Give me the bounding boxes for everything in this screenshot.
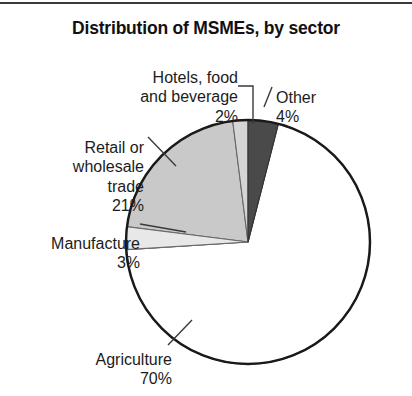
slice-label-other-text: Other — [276, 89, 316, 106]
leader-line-hotels — [238, 86, 253, 124]
slice-label-other: Other 4% — [276, 68, 366, 146]
slice-value-manufacture: 3% — [4, 253, 140, 273]
pie-chart-figure: Distribution of MSMEs, by sector Hotels,… — [0, 0, 412, 396]
slice-label-manufacture: Manufacture 3% — [4, 214, 140, 292]
slice-label-agriculture: Agriculture 70% — [28, 330, 172, 396]
slice-label-agriculture-text: Agriculture — [96, 351, 172, 368]
slice-value-agriculture: 70% — [28, 369, 172, 389]
slice-value-other: 4% — [276, 107, 366, 127]
slice-label-hotels-text: Hotels, food and beverage — [140, 69, 238, 106]
slice-label-retail-text: Retail or wholesale trade — [73, 139, 144, 195]
slice-label-manufacture-text: Manufacture — [51, 235, 140, 252]
leader-line-other — [264, 87, 272, 107]
slice-value-retail: 21% — [22, 196, 144, 216]
